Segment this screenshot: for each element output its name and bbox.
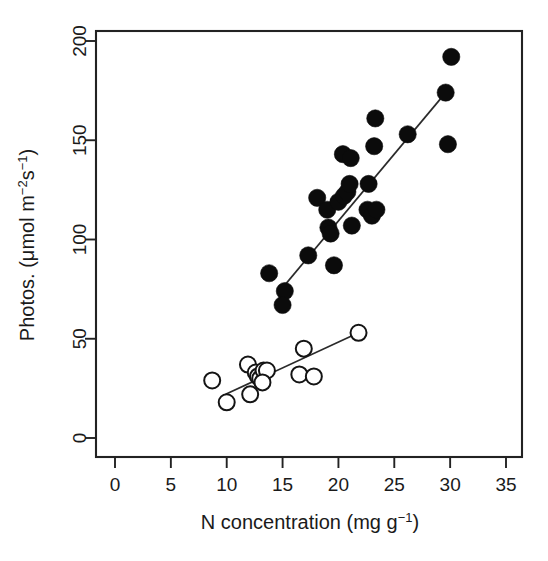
x-tick-label: 15 — [272, 474, 293, 495]
data-point — [300, 247, 317, 264]
data-point — [325, 257, 342, 274]
x-tick-label: 5 — [166, 474, 177, 495]
filled-circle-series — [261, 48, 460, 313]
data-point — [274, 296, 291, 313]
y-tick-label: 200 — [69, 25, 90, 57]
data-point — [360, 175, 377, 192]
data-point — [367, 110, 384, 127]
x-tick-label: 10 — [216, 474, 237, 495]
plot-canvas: 05101520253035 050100150200 N concentrat… — [0, 0, 548, 561]
y-tick-label: 150 — [69, 124, 90, 156]
filled-fit — [278, 93, 446, 293]
x-tick-label: 25 — [384, 474, 405, 495]
data-point — [322, 225, 339, 242]
data-point — [439, 136, 456, 153]
plot-border — [96, 31, 522, 457]
data-point — [204, 372, 220, 388]
data-point — [342, 150, 359, 167]
data-point — [219, 394, 235, 410]
data-point — [399, 126, 416, 143]
scatter-plot-figure: 05101520253035 050100150200 N concentrat… — [0, 0, 548, 561]
y-tick-label: 100 — [69, 224, 90, 256]
data-point — [242, 386, 258, 402]
y-tick-label: 50 — [69, 328, 90, 349]
x-tick-label: 35 — [495, 474, 516, 495]
data-point — [296, 341, 312, 357]
data-point — [368, 201, 385, 218]
data-point — [291, 366, 307, 382]
y-tick-label: 0 — [69, 433, 90, 444]
x-axis-title: N concentration (mg g−1) — [201, 510, 419, 533]
x-axis-ticks — [115, 457, 506, 468]
x-tick-label: 30 — [440, 474, 461, 495]
data-point — [306, 368, 322, 384]
y-axis-title: Photos. (μmol m−2s−1) — [15, 149, 38, 341]
x-tick-label: 0 — [110, 474, 121, 495]
data-point — [437, 84, 454, 101]
data-point — [351, 325, 367, 341]
data-point — [366, 138, 383, 155]
x-tick-label: 20 — [328, 474, 349, 495]
data-point — [343, 217, 360, 234]
y-axis-tick-labels: 050100150200 — [69, 25, 90, 443]
data-point — [443, 48, 460, 65]
data-point — [341, 175, 358, 192]
data-point — [254, 374, 270, 390]
data-point — [261, 265, 278, 282]
plot-frame — [96, 31, 522, 457]
x-axis-tick-labels: 05101520253035 — [110, 474, 517, 495]
